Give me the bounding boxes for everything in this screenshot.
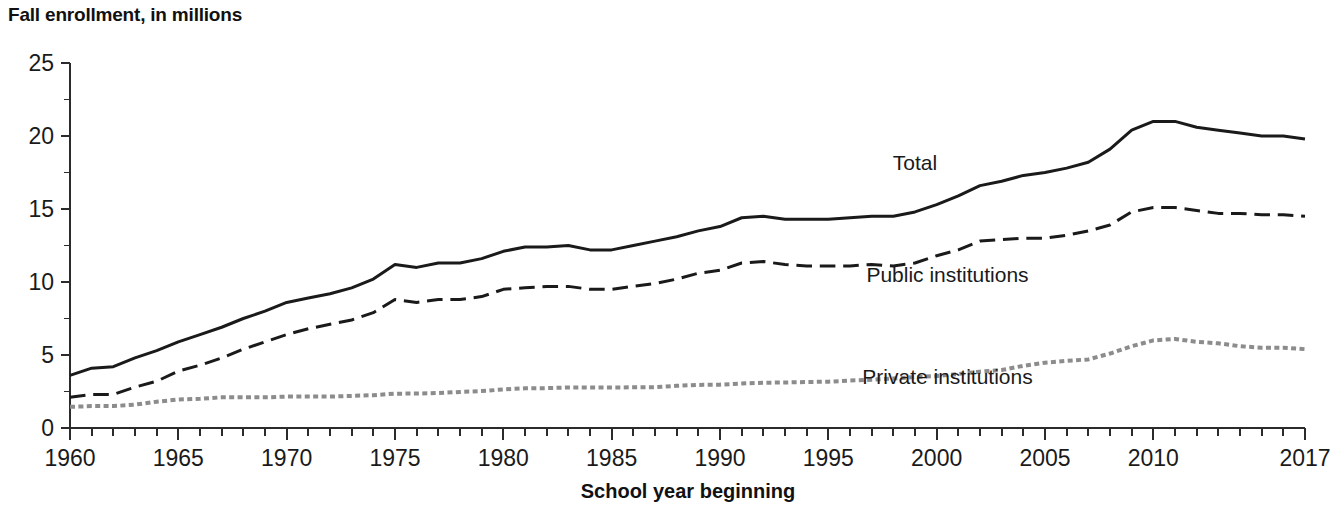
y-tick-label: 5	[41, 342, 54, 368]
x-tick-label: 2017	[1279, 445, 1330, 471]
x-axis-title: School year beginning	[581, 480, 795, 502]
x-tick-label: 1980	[478, 445, 529, 471]
x-tick-label: 2000	[911, 445, 962, 471]
axis-lines	[70, 63, 1305, 428]
series-line-total	[70, 121, 1305, 375]
y-tick-label: 15	[28, 196, 54, 222]
axes-group	[61, 63, 1305, 440]
y-tick-label: 10	[28, 269, 54, 295]
x-tick-label: 1970	[261, 445, 312, 471]
x-tick-label: 1985	[586, 445, 637, 471]
y-tick-label: 0	[41, 415, 54, 441]
x-tick-label: 1990	[694, 445, 745, 471]
x-tick-label: 1960	[44, 445, 95, 471]
x-tick-label: 1975	[369, 445, 420, 471]
series-label-public-institutions: Public institutions	[866, 263, 1028, 286]
series-annotations: TotalPublic institutionsPrivate institut…	[862, 151, 1032, 389]
chart-plot-area: 0510152025 19601965197019751980198519901…	[0, 0, 1339, 522]
y-tick-labels: 0510152025	[28, 50, 54, 441]
y-tick-label: 25	[28, 50, 54, 76]
enrollment-line-chart: Fall enrollment, in millions 0510152025 …	[0, 0, 1339, 522]
x-tick-label: 2010	[1128, 445, 1179, 471]
series-line-public-institutions	[70, 208, 1305, 398]
series-label-total: Total	[893, 151, 937, 174]
x-tick-label: 1995	[803, 445, 854, 471]
series-group	[70, 121, 1305, 406]
y-tick-label: 20	[28, 123, 54, 149]
series-label-private-institutions: Private institutions	[862, 365, 1032, 388]
series-line-private-institutions	[70, 339, 1305, 407]
x-tick-label: 1965	[153, 445, 204, 471]
x-tick-label: 2005	[1019, 445, 1070, 471]
x-tick-labels: 1960196519701975198019851990199520002005…	[44, 445, 1330, 471]
